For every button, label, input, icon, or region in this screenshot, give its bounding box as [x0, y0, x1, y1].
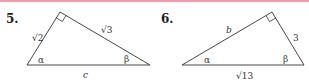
triangle-5-outline	[27, 12, 150, 65]
triangle-5-alpha-label: α	[38, 55, 44, 65]
triangle-5-hypotenuse-label: c	[83, 70, 88, 80]
triangle-5: √2 √3 c α β	[27, 12, 150, 80]
triangle-6-beta-label: β	[283, 54, 288, 64]
triangle-5-right-leg-label: √3	[101, 25, 113, 35]
triangle-figures: √2 √3 c α β b 3 √13 α β	[0, 0, 309, 82]
triangle-5-beta-label: β	[124, 54, 129, 64]
triangle-6-left-leg-label: b	[226, 25, 232, 35]
triangle-6: b 3 √13 α β	[182, 12, 304, 81]
triangle-6-alpha-label: α	[204, 55, 210, 65]
triangle-5-left-leg-label: √2	[32, 33, 43, 43]
triangle-6-hypotenuse-label: √13	[236, 71, 253, 81]
triangle-6-right-leg-label: 3	[293, 33, 299, 43]
